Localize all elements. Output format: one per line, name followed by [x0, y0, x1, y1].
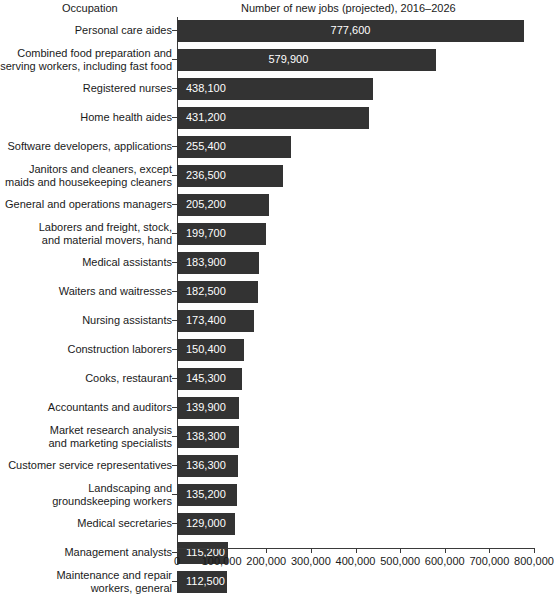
- x-axis-tick: [177, 548, 178, 553]
- category-label: Janitors and cleaners, except maids and …: [0, 163, 172, 188]
- category-label: Medical secretaries: [0, 517, 172, 530]
- bar-value-label: 438,100: [186, 82, 226, 95]
- bar-row: Combined food preparation and serving wo…: [0, 46, 549, 75]
- x-axis-tick-label: 100,000: [202, 555, 242, 568]
- x-axis-tick-label: 600,000: [425, 555, 465, 568]
- x-axis-tick: [311, 548, 312, 553]
- bar-value-label: 236,500: [186, 169, 226, 182]
- bar-value-label: 205,200: [186, 198, 226, 211]
- category-label: Accountants and auditors: [0, 401, 172, 414]
- bar-row: Home health aides431,200: [0, 104, 549, 133]
- bar-value-label: 777,600: [331, 24, 371, 37]
- bar-value-label: 129,000: [186, 517, 226, 530]
- category-label: Construction laborers: [0, 343, 172, 356]
- x-axis-tick-label: 800,000: [514, 555, 554, 568]
- x-axis-tick: [489, 548, 490, 553]
- x-axis: 0100,000200,000300,000400,000500,000600,…: [0, 548, 549, 571]
- bar-row: Market research analysis and marketing s…: [0, 423, 549, 452]
- value-column-header: Number of new jobs (projected), 2016–202…: [241, 2, 456, 15]
- bar-row: Nursing assistants173,400: [0, 307, 549, 336]
- bar-value-label: 182,500: [186, 285, 226, 298]
- bar-row: Landscaping and groundskeeping workers13…: [0, 481, 549, 510]
- bar-row: Personal care aides777,600: [0, 17, 549, 46]
- x-axis-tick-label: 0: [174, 555, 180, 568]
- category-label: Landscaping and groundskeeping workers: [0, 482, 172, 507]
- bar-row: Accountants and auditors139,900: [0, 394, 549, 423]
- bar-value-label: 173,400: [186, 314, 226, 327]
- x-axis-tick-label: 400,000: [336, 555, 376, 568]
- bar-row: Maintenance and repair workers, general1…: [0, 568, 549, 597]
- category-label: Registered nurses: [0, 82, 172, 95]
- bar-row: Laborers and freight, stock, and materia…: [0, 220, 549, 249]
- x-axis-tick: [445, 548, 446, 553]
- plot-area: Personal care aides777,600Combined food …: [0, 17, 549, 549]
- category-label: Customer service representatives: [0, 459, 172, 472]
- bar-row: Software developers, applications255,400: [0, 133, 549, 162]
- bar-row: Waiters and waitresses182,500: [0, 278, 549, 307]
- occupation-column-header: Occupation: [62, 2, 118, 15]
- bar-value-label: 255,400: [186, 140, 226, 153]
- bar-row: Registered nurses438,100: [0, 75, 549, 104]
- category-label: Market research analysis and marketing s…: [0, 424, 172, 449]
- category-label: Software developers, applications: [0, 140, 172, 153]
- category-label: Maintenance and repair workers, general: [0, 569, 172, 594]
- x-axis-tick: [356, 548, 357, 553]
- x-axis-tick-label: 200,000: [246, 555, 286, 568]
- category-label: Personal care aides: [0, 24, 172, 37]
- bar-row: Medical assistants183,900: [0, 249, 549, 278]
- category-label: Combined food preparation and serving wo…: [0, 47, 172, 72]
- category-label: Waiters and waitresses: [0, 285, 172, 298]
- bar-value-label: 145,300: [186, 372, 226, 385]
- x-axis-tick: [534, 548, 535, 553]
- category-label: Cooks, restaurant: [0, 372, 172, 385]
- x-axis-tick-label: 500,000: [380, 555, 420, 568]
- category-label: Laborers and freight, stock, and materia…: [0, 221, 172, 246]
- bar-value-label: 431,200: [186, 111, 226, 124]
- bar-row: Janitors and cleaners, except maids and …: [0, 162, 549, 191]
- bar-value-label: 139,900: [186, 401, 226, 414]
- bar-row: Medical secretaries129,000: [0, 510, 549, 539]
- bar-value-label: 183,900: [186, 256, 226, 269]
- x-axis-tick: [222, 548, 223, 553]
- x-axis-tick: [266, 548, 267, 553]
- bar-row: Cooks, restaurant145,300: [0, 365, 549, 394]
- x-axis-tick: [400, 548, 401, 553]
- category-label: Home health aides: [0, 111, 172, 124]
- x-axis-tick-label: 700,000: [469, 555, 509, 568]
- bar-value-label: 199,700: [186, 227, 226, 240]
- bar-value-label: 150,400: [186, 343, 226, 356]
- bar-value-label: 135,200: [186, 488, 226, 501]
- category-label: Medical assistants: [0, 256, 172, 269]
- bar-value-label: 579,900: [268, 53, 308, 66]
- bar-row: Customer service representatives136,300: [0, 452, 549, 481]
- bar-value-label: 138,300: [186, 430, 226, 443]
- bar-row: General and operations managers205,200: [0, 191, 549, 220]
- x-axis-tick-label: 300,000: [291, 555, 331, 568]
- bar-value-label: 112,500: [186, 575, 225, 588]
- category-label: Nursing assistants: [0, 314, 172, 327]
- bar-value-label: 136,300: [186, 459, 226, 472]
- category-label: General and operations managers: [0, 198, 172, 211]
- bar-row: Construction laborers150,400: [0, 336, 549, 365]
